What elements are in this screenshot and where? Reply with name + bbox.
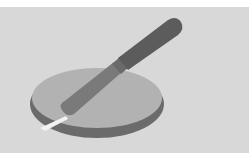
knife-and-disc-illustration — [0, 0, 249, 160]
knife-handle — [118, 18, 182, 70]
